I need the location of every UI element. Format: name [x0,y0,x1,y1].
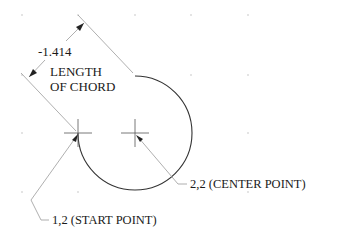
dimension-value: -1.414 [38,45,72,58]
chord-label-line1: LENGTH [50,64,115,79]
chord-label-line2: OF CHORD [50,79,115,94]
center-leader-arrow [136,135,143,142]
center-point-crosshair [121,119,149,147]
chord-length-label: LENGTH OF CHORD [50,64,115,94]
drawing-canvas [0,0,340,243]
center-point-label: 2,2 (CENTER POINT) [190,178,306,191]
center-point-leader [138,137,187,184]
start-point-leader [31,137,76,220]
start-point-label: 1,2 (START POINT) [52,214,157,227]
